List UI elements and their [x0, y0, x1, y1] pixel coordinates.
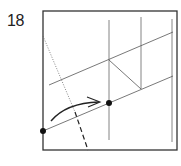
corner-point — [40, 128, 46, 134]
paper-square — [43, 11, 177, 150]
origami-diagram — [0, 0, 181, 166]
target-point — [106, 100, 112, 106]
